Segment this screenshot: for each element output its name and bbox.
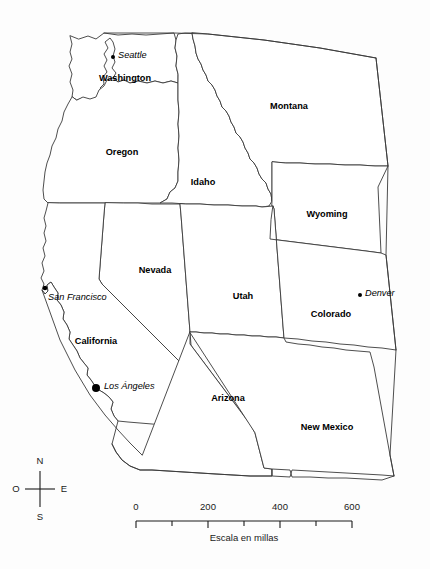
- state-shape-utah[interactable]: [180, 204, 284, 338]
- city-label-denver: Denver: [365, 288, 396, 298]
- city-label-los-angeles: Los Ángeles: [104, 381, 155, 391]
- scale-label-600: 600: [344, 501, 360, 512]
- state-label-colorado: Colorado: [311, 309, 352, 319]
- state-label-oregon: Oregon: [106, 147, 139, 157]
- compass-label-north: N: [37, 455, 44, 466]
- state-shape-oregon[interactable]: [43, 78, 179, 203]
- state-label-washington: Washington: [99, 73, 152, 83]
- scale-label-0: 0: [133, 501, 138, 512]
- compass-rose: N O E S: [12, 455, 67, 522]
- city-dot-seattle: [111, 55, 115, 59]
- state-label-montana: Montana: [270, 101, 309, 111]
- colorado-newmexico-east-border: [390, 350, 396, 476]
- scale-label-400: 400: [272, 501, 288, 512]
- state-shape-wyoming[interactable]: [270, 162, 388, 253]
- city-dot-san-francisco: [43, 286, 48, 291]
- compass-label-east: E: [61, 483, 67, 494]
- city-label-san-francisco: San Francisco: [48, 292, 107, 302]
- compass-label-west: O: [12, 483, 19, 494]
- city-label-seattle: Seattle: [118, 50, 147, 60]
- city-dot-denver: [358, 293, 362, 297]
- scale-label-200: 200: [200, 501, 216, 512]
- scale-bar: 0 200 400 600 Escala en millas: [133, 501, 360, 543]
- scale-caption: Escala en millas: [210, 532, 279, 543]
- state-outlines: [41, 33, 396, 477]
- city-dot-los-angeles: [92, 384, 100, 392]
- state-label-utah: Utah: [233, 291, 254, 301]
- state-label-california: California: [75, 336, 118, 346]
- state-label-new-mexico: New Mexico: [301, 422, 354, 432]
- map-container: Washington Oregon Idaho Montana Wyoming …: [0, 0, 430, 569]
- compass-label-south: S: [37, 511, 43, 522]
- state-label-arizona: Arizona: [211, 393, 246, 403]
- state-label-nevada: Nevada: [139, 265, 173, 275]
- western-united-states-map: Washington Oregon Idaho Montana Wyoming …: [0, 0, 430, 569]
- state-label-wyoming: Wyoming: [306, 209, 347, 219]
- state-label-idaho: Idaho: [191, 177, 216, 187]
